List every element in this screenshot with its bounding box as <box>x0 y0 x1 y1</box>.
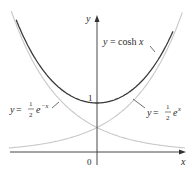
svg-text:1: 1 <box>166 103 170 111</box>
svg-text:y: y <box>9 104 15 115</box>
svg-text:=: = <box>153 107 159 118</box>
left-exp-label: y = 1 2 e −x <box>9 100 48 119</box>
right-exp-pointer <box>133 99 145 108</box>
svg-text:2: 2 <box>29 111 33 119</box>
svg-text:y: y <box>146 107 152 118</box>
svg-text:−x: −x <box>41 102 48 109</box>
half-exp-x-curve <box>9 12 183 148</box>
y-tick-one-label: 1 <box>88 93 93 103</box>
svg-text:1: 1 <box>29 100 33 108</box>
cosh-plot: y x 0 1 y = cosh x y = 1 2 e −x y = 1 2 … <box>0 0 195 174</box>
y-axis-arrow-icon <box>95 15 100 22</box>
cosh-label: y = cosh x <box>102 36 144 47</box>
svg-text:=: = <box>16 104 22 115</box>
cosh-pointer <box>150 46 155 52</box>
x-axis-label: x <box>180 156 186 167</box>
y-axis-label: y <box>85 13 91 24</box>
svg-text:x: x <box>177 105 181 112</box>
cosh-curve <box>16 20 173 103</box>
origin-label: 0 <box>87 157 92 167</box>
left-exp-pointer <box>52 102 59 108</box>
svg-text:2: 2 <box>166 114 170 122</box>
right-exp-label: y = 1 2 e x <box>146 103 181 122</box>
x-axis-arrow-icon <box>179 150 186 155</box>
